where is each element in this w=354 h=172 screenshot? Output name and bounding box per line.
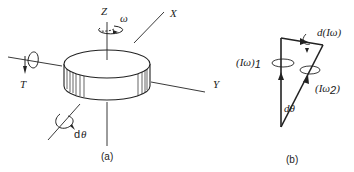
- omega-label: ω: [120, 12, 128, 24]
- x-axis-label: X: [169, 7, 178, 19]
- figure-b: (Iω)1 (Iω2) d(Iω) dθ (b): [236, 26, 342, 165]
- y-axis: [151, 82, 205, 92]
- dtheta-label-theta: θ: [81, 128, 87, 140]
- t-axis: [8, 57, 62, 66]
- iw1-rotation-icon: [272, 59, 294, 67]
- spinning-disk: [64, 50, 150, 100]
- torque-label: T: [20, 78, 27, 90]
- figure-b-caption: (b): [286, 154, 298, 165]
- dtheta-rotation-icon: [56, 114, 75, 130]
- dtheta-label-d: d: [74, 128, 80, 140]
- d-iw-rotation-icon: [303, 34, 310, 53]
- gyroscope-diagram: Z ω X Y T d θ (a) (Iω)1 (Iω2) d(Iω): [0, 0, 354, 172]
- figure-a-caption: (a): [101, 151, 113, 162]
- z-axis-label: Z: [101, 5, 108, 17]
- figure-a: Z ω X Y T d θ (a): [8, 5, 221, 162]
- iw1-label: (Iω)1: [236, 56, 261, 70]
- dtheta-label: dθ: [284, 102, 296, 114]
- torque-rotation-icon: [23, 52, 38, 74]
- iw2-label: (Iω2): [315, 82, 340, 96]
- omega-rotation-icon: [99, 26, 123, 34]
- x-axis: [134, 12, 164, 43]
- d-iw-label: d(Iω): [317, 26, 342, 39]
- y-axis-label: Y: [213, 78, 221, 90]
